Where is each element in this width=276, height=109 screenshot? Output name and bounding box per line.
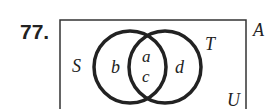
region-d-label: d xyxy=(175,57,185,77)
venn-diagram: S b a c d T A U xyxy=(0,0,276,109)
region-b-label: b xyxy=(111,57,120,77)
set-s-label: S xyxy=(72,56,81,76)
region-a-label: a xyxy=(142,47,151,66)
universe-label: U xyxy=(227,90,241,109)
outside-label-a: A xyxy=(252,20,265,40)
set-t-label: T xyxy=(205,34,217,54)
region-c-label: c xyxy=(142,67,150,86)
